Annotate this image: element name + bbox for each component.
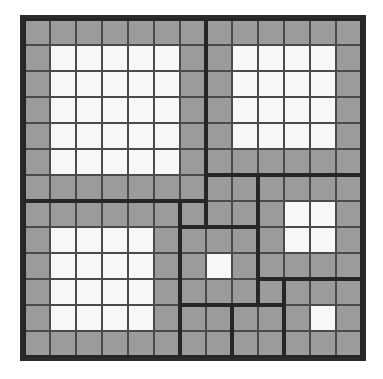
gray-cell bbox=[336, 97, 362, 123]
gray-cell bbox=[206, 331, 232, 357]
gray-cell bbox=[24, 71, 50, 97]
gray-cell bbox=[232, 149, 258, 175]
white-cell bbox=[50, 71, 76, 97]
white-cell bbox=[128, 71, 154, 97]
gray-cell bbox=[50, 201, 76, 227]
white-cell bbox=[232, 45, 258, 71]
gray-cell bbox=[24, 201, 50, 227]
gray-cell bbox=[310, 331, 336, 357]
gray-cell bbox=[50, 331, 76, 357]
white-cell bbox=[232, 97, 258, 123]
gray-cell bbox=[24, 175, 50, 201]
gray-cell bbox=[102, 331, 128, 357]
white-cell bbox=[50, 149, 76, 175]
gray-cell bbox=[232, 227, 258, 253]
gray-cell bbox=[76, 331, 102, 357]
gray-cell bbox=[180, 45, 206, 71]
white-cell bbox=[128, 123, 154, 149]
gray-cell bbox=[24, 305, 50, 331]
white-cell bbox=[76, 253, 102, 279]
gray-cell bbox=[154, 227, 180, 253]
white-cell bbox=[50, 305, 76, 331]
gray-cell bbox=[206, 123, 232, 149]
gray-cell bbox=[336, 227, 362, 253]
white-cell bbox=[310, 123, 336, 149]
gray-cell bbox=[128, 201, 154, 227]
gray-cell bbox=[24, 227, 50, 253]
gray-cell bbox=[180, 97, 206, 123]
gray-cell bbox=[336, 175, 362, 201]
white-cell bbox=[50, 123, 76, 149]
white-cell bbox=[102, 149, 128, 175]
white-cell bbox=[284, 45, 310, 71]
white-cell bbox=[128, 227, 154, 253]
gray-cell bbox=[180, 149, 206, 175]
white-cell bbox=[128, 149, 154, 175]
white-cell bbox=[284, 71, 310, 97]
white-cell bbox=[50, 97, 76, 123]
white-cell bbox=[310, 201, 336, 227]
white-cell bbox=[102, 97, 128, 123]
square-dissection-board bbox=[20, 15, 366, 361]
gray-cell bbox=[310, 175, 336, 201]
white-cell bbox=[284, 97, 310, 123]
white-cell bbox=[154, 71, 180, 97]
white-cell bbox=[258, 45, 284, 71]
white-cell bbox=[50, 45, 76, 71]
white-cell bbox=[206, 253, 232, 279]
white-cell bbox=[310, 45, 336, 71]
gray-cell bbox=[336, 279, 362, 305]
gray-cell bbox=[206, 175, 232, 201]
gray-cell bbox=[206, 45, 232, 71]
gray-cell bbox=[336, 45, 362, 71]
gray-cell bbox=[154, 279, 180, 305]
gray-cell bbox=[24, 123, 50, 149]
gray-cell bbox=[258, 253, 284, 279]
white-cell bbox=[128, 305, 154, 331]
gray-cell bbox=[102, 19, 128, 45]
white-cell bbox=[128, 279, 154, 305]
gray-cell bbox=[232, 253, 258, 279]
cell-grid bbox=[24, 19, 362, 357]
white-cell bbox=[258, 123, 284, 149]
gray-cell bbox=[232, 175, 258, 201]
gray-cell bbox=[24, 97, 50, 123]
white-cell bbox=[310, 71, 336, 97]
gray-cell bbox=[284, 305, 310, 331]
gray-cell bbox=[310, 149, 336, 175]
white-cell bbox=[102, 279, 128, 305]
gray-cell bbox=[258, 279, 284, 305]
gray-cell bbox=[206, 19, 232, 45]
white-cell bbox=[284, 227, 310, 253]
gray-cell bbox=[102, 201, 128, 227]
gray-cell bbox=[206, 227, 232, 253]
white-cell bbox=[102, 305, 128, 331]
white-cell bbox=[232, 71, 258, 97]
gray-cell bbox=[180, 227, 206, 253]
gray-cell bbox=[310, 279, 336, 305]
white-cell bbox=[154, 97, 180, 123]
white-cell bbox=[102, 45, 128, 71]
gray-cell bbox=[284, 19, 310, 45]
gray-cell bbox=[258, 305, 284, 331]
gray-cell bbox=[284, 149, 310, 175]
gray-cell bbox=[310, 19, 336, 45]
gray-cell bbox=[180, 19, 206, 45]
gray-cell bbox=[284, 279, 310, 305]
gray-cell bbox=[232, 331, 258, 357]
gray-cell bbox=[76, 175, 102, 201]
white-cell bbox=[284, 123, 310, 149]
white-cell bbox=[102, 227, 128, 253]
gray-cell bbox=[24, 45, 50, 71]
gray-cell bbox=[232, 19, 258, 45]
white-cell bbox=[154, 45, 180, 71]
white-cell bbox=[128, 253, 154, 279]
gray-cell bbox=[24, 279, 50, 305]
gray-cell bbox=[258, 19, 284, 45]
gray-cell bbox=[128, 175, 154, 201]
gray-cell bbox=[76, 19, 102, 45]
gray-cell bbox=[24, 331, 50, 357]
gray-cell bbox=[76, 201, 102, 227]
white-cell bbox=[76, 123, 102, 149]
gray-cell bbox=[128, 19, 154, 45]
